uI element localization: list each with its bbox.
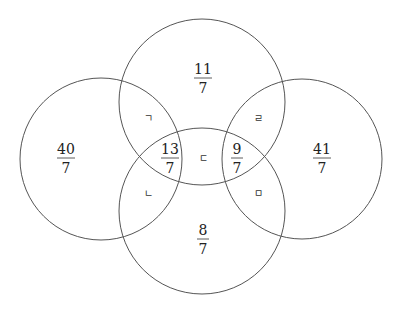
- fraction-right-center: 97: [231, 141, 243, 176]
- fraction-top-only: 117: [194, 61, 212, 96]
- fraction-denominator: 7: [62, 160, 71, 176]
- circle-left: [20, 78, 182, 240]
- region-label-top-left-overlap: ㄱ: [144, 113, 153, 124]
- fraction-numerator: 11: [194, 61, 212, 77]
- fraction-left-only: 407: [57, 141, 75, 176]
- region-label-center: ㄷ: [199, 153, 208, 164]
- fraction-right-only: 417: [313, 141, 331, 176]
- region-label-bottom-right-overlap: ㅁ: [254, 188, 263, 199]
- fraction-denominator: 7: [318, 160, 327, 176]
- fraction-numerator: 13: [161, 141, 179, 157]
- fraction-numerator: 9: [233, 141, 242, 157]
- fraction-left-center: 137: [161, 141, 179, 176]
- fraction-denominator: 7: [199, 80, 208, 96]
- region-label-top-right-overlap: ㄹ: [254, 113, 263, 124]
- venn-diagram: 1174074178713797 ㄱㄹㄷㄴㅁ: [0, 0, 401, 311]
- fraction-denominator: 7: [199, 241, 208, 257]
- fraction-numerator: 40: [57, 141, 75, 157]
- fraction-numerator: 41: [313, 141, 331, 157]
- region-label-bottom-left-overlap: ㄴ: [144, 188, 153, 199]
- fraction-denominator: 7: [166, 160, 175, 176]
- fraction-denominator: 7: [233, 160, 242, 176]
- fraction-bottom-only: 87: [197, 222, 209, 257]
- fraction-numerator: 8: [199, 222, 208, 238]
- circle-right: [222, 79, 382, 239]
- fraction-labels: 1174074178713797: [57, 61, 331, 257]
